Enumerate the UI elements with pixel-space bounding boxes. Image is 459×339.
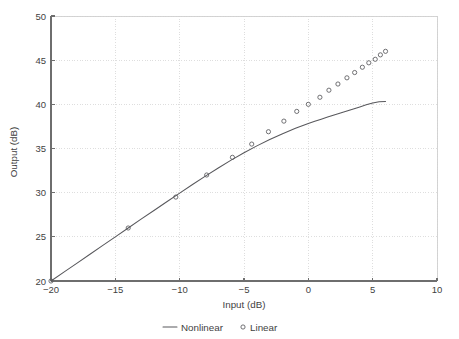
x-tick-label: −5 xyxy=(239,284,250,295)
y-tick-label: 35 xyxy=(35,143,46,154)
y-tick-label: 45 xyxy=(35,55,46,66)
y-tick-label: 40 xyxy=(35,99,46,110)
x-tick-label: −15 xyxy=(107,284,123,295)
x-axis-title: Input (dB) xyxy=(222,299,265,310)
x-tick-label: 5 xyxy=(370,284,375,295)
legend-label-nonlinear: Nonlinear xyxy=(181,322,224,333)
legend-label-linear: Linear xyxy=(250,322,278,333)
x-tick-label: 0 xyxy=(306,284,311,295)
x-tick-label: 10 xyxy=(432,284,443,295)
chart-container: −20−15−10−5051020253035404550 Input (dB)… xyxy=(0,0,459,339)
y-tick-label: 50 xyxy=(35,11,46,22)
x-tick-label: −10 xyxy=(172,284,188,295)
y-tick-label: 25 xyxy=(35,231,46,242)
chart-background xyxy=(0,0,459,339)
y-tick-label: 20 xyxy=(35,276,46,287)
chart-legend: Nonlinear Linear xyxy=(163,322,278,333)
y-tick-label: 30 xyxy=(35,187,46,198)
chart-plot-svg: −20−15−10−5051020253035404550 Input (dB)… xyxy=(0,0,459,339)
y-axis-title: Output (dB) xyxy=(8,127,19,178)
